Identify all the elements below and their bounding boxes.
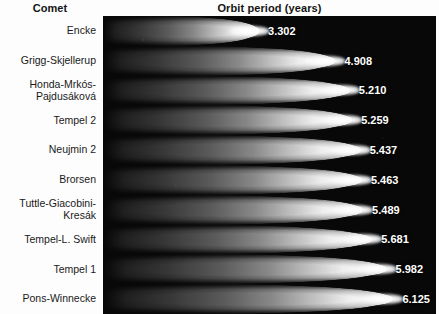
comet-orbit-period-chart: Comet Orbit period (years) EnckeGrigg-Sk…	[0, 0, 439, 314]
comet-name-label: Tempel-L. Swift	[0, 234, 96, 246]
comet-name-line-1: Brorsen	[59, 173, 96, 185]
orbit-period-value: 5.489	[372, 204, 400, 216]
comet-name-line-1: Tempel 1	[53, 263, 96, 275]
comet-bar-row: 5.489	[103, 195, 436, 225]
comet-name-line-2: Pajdusáková	[0, 91, 96, 103]
comet-tail-bar	[103, 254, 388, 284]
comet-bar-row: 5.259	[103, 105, 436, 135]
comet-tail-bar	[103, 16, 260, 46]
comet-name-line-1: Encke	[67, 24, 96, 36]
comet-name-line-1: Grigg-Skjellerup	[21, 54, 96, 66]
comet-tail-bar	[103, 284, 394, 314]
orbit-period-value: 5.259	[361, 114, 389, 126]
comet-name-line-1: Neujmin 2	[49, 143, 96, 155]
comet-name-line-2: Kresák	[0, 210, 96, 222]
comet-tail-bar	[103, 46, 336, 76]
comet-tail-bar	[103, 225, 373, 255]
chart-plot-area: 3.3024.9085.2105.2595.4375.4635.4895.681…	[103, 16, 436, 314]
comet-name-label: Honda-Mrkós-Pajdusáková	[0, 79, 96, 102]
orbit-period-value: 6.125	[402, 293, 430, 305]
comet-name-label: Brorsen	[0, 174, 96, 186]
orbit-period-value: 5.681	[381, 233, 409, 245]
comet-label-column: EnckeGrigg-SkjellerupHonda-Mrkós-Pajdusá…	[0, 16, 100, 314]
comet-tail-bar	[103, 165, 363, 195]
comet-tail-bar	[103, 135, 362, 165]
comet-name-label: Tempel 2	[0, 115, 96, 127]
comet-name-label: Pons-Winnecke	[0, 293, 96, 305]
comet-name-line-1: Tuttle-Giacobini-	[19, 197, 96, 209]
comet-name-label: Tempel 1	[0, 264, 96, 276]
comet-bar-row: 5.437	[103, 135, 436, 165]
comet-bar-row: 5.982	[103, 254, 436, 284]
comet-bar-row: 6.125	[103, 284, 436, 314]
orbit-period-value: 5.463	[371, 174, 399, 186]
comet-name-line-1: Honda-Mrkós-	[29, 78, 96, 90]
comet-tail-bar	[103, 195, 364, 225]
comet-name-label: Tuttle-Giacobini-Kresák	[0, 198, 96, 221]
comet-bar-row: 5.463	[103, 165, 436, 195]
comet-bar-row: 5.210	[103, 76, 436, 106]
comet-bar-row: 4.908	[103, 46, 436, 76]
orbit-period-value: 5.982	[396, 263, 424, 275]
comet-name-label: Encke	[0, 25, 96, 37]
comet-name-label: Grigg-Skjellerup	[0, 55, 96, 67]
comet-name-line-1: Tempel 2	[53, 114, 96, 126]
comet-name-label: Neujmin 2	[0, 144, 96, 156]
orbit-period-column-header: Orbit period (years)	[103, 2, 436, 14]
orbit-period-value: 5.210	[359, 84, 387, 96]
comet-column-header: Comet	[0, 2, 100, 14]
comet-bar-row: 5.681	[103, 225, 436, 255]
orbit-period-value: 3.302	[268, 25, 296, 37]
orbit-period-value: 4.908	[344, 55, 372, 67]
comet-tail-bar	[103, 76, 351, 106]
comet-name-line-1: Pons-Winnecke	[22, 292, 96, 304]
comet-tail-bar	[103, 105, 353, 135]
orbit-period-value: 5.437	[370, 144, 398, 156]
comet-bar-row: 3.302	[103, 16, 436, 46]
comet-name-line-1: Tempel-L. Swift	[24, 233, 96, 245]
